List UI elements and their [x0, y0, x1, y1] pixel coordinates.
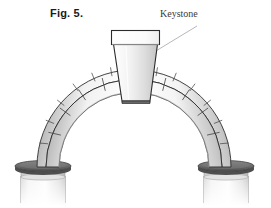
figure-container: Fig. 5. Keystone [0, 0, 271, 208]
figure-caption: Fig. 5. [50, 7, 83, 19]
column-right [203, 176, 249, 206]
keystone-callout-label: Keystone [160, 8, 198, 19]
arch-illustration [0, 0, 271, 208]
column-left [20, 176, 66, 206]
